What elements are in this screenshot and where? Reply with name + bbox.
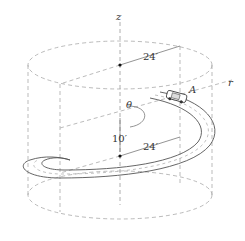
z-axis-label: z [115, 11, 122, 22]
top-radius-label: 24′ [143, 51, 159, 62]
car-icon [166, 90, 188, 104]
top-radius-back [60, 65, 120, 84]
helical-ramp-diagram: z r θ 24′ 24′ 10′ A [0, 0, 245, 241]
height-label: 10′ [112, 133, 128, 144]
point-a-label: A [188, 84, 196, 95]
bottom-radius-label: 24′ [143, 141, 159, 152]
top-center-dot [118, 63, 121, 66]
bottom-radius-back [60, 156, 120, 173]
bottom-center-dot [118, 154, 121, 157]
theta-label: θ [126, 99, 132, 110]
diagram-svg: z r θ 24′ 24′ 10′ A [0, 0, 245, 241]
r-axis-label: r [228, 77, 234, 88]
